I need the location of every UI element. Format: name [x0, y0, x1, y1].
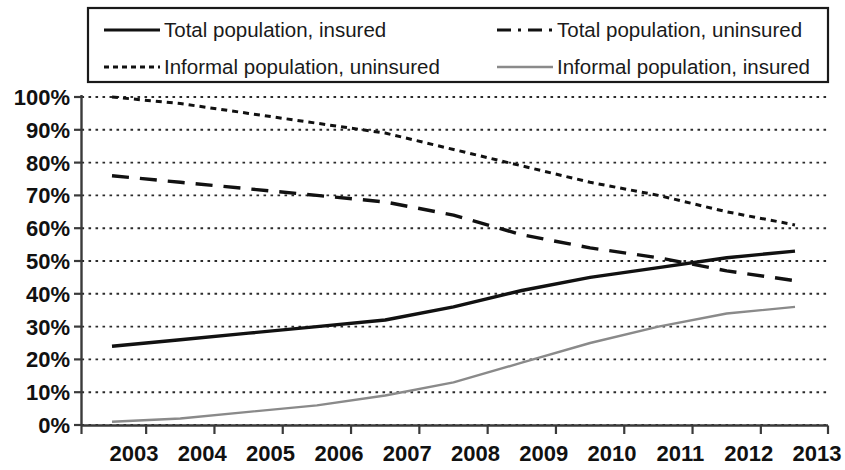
- y-axis-tick-label: 20%: [26, 347, 70, 372]
- y-axis-tick-label: 80%: [26, 151, 70, 176]
- x-axis-tick-label: 2013: [793, 441, 842, 466]
- x-axis-tick-label: 2003: [110, 441, 159, 466]
- legend-item-label: Total population, insured: [164, 18, 386, 41]
- line-chart-figure: Total population, insured Total populati…: [0, 0, 845, 470]
- x-axis-tick-label: 2009: [519, 441, 568, 466]
- y-axis-tick-label: 90%: [26, 118, 70, 143]
- y-axis-tick-label: 100%: [14, 85, 70, 110]
- y-axis-tick-label: 10%: [26, 380, 70, 405]
- y-axis-tick-label: 0%: [38, 413, 70, 438]
- x-axis-tick-label: 2011: [657, 441, 705, 466]
- x-axis-tick-label: 2006: [314, 441, 363, 466]
- y-axis-tick-label: 50%: [26, 249, 70, 274]
- y-axis-tick-label: 40%: [26, 282, 70, 307]
- x-axis-tick-label: 2008: [451, 441, 500, 466]
- x-axis-tick-label: 2005: [246, 441, 295, 466]
- legend-item-label: Informal population, uninsured: [164, 55, 440, 78]
- chart-legend: Total population, insured Total populati…: [88, 8, 828, 82]
- x-axis-tick-label: 2012: [724, 441, 773, 466]
- legend-item-label: Informal population, insured: [557, 55, 810, 78]
- x-axis-tick-label: 2010: [588, 441, 637, 466]
- chart-canvas: Total population, insured Total populati…: [0, 0, 845, 470]
- x-axis-labels: 2003200420052006200720082009201020112012…: [110, 441, 842, 466]
- x-axis-tick-label: 2004: [178, 441, 228, 466]
- y-axis-tick-label: 30%: [26, 315, 70, 340]
- y-axis-tick-label: 70%: [26, 183, 70, 208]
- x-axis-tick-label: 2007: [383, 441, 432, 466]
- y-axis-tick-label: 60%: [26, 216, 70, 241]
- legend-item-label: Total population, uninsured: [557, 18, 802, 41]
